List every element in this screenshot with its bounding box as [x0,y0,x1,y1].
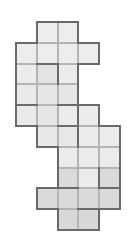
piece-border [77,63,79,86]
grid-cell [58,84,79,105]
piece-border [119,187,121,210]
grid-cell [78,188,99,209]
piece-border [36,125,38,148]
piece-border [36,21,38,44]
grid-cell [58,147,79,168]
polyomino-puzzle-board [0,0,130,252]
piece-border [15,125,38,127]
piece-border [98,187,121,189]
grid-cell [78,105,99,126]
grid-cell [58,126,79,147]
piece-border [77,208,100,210]
grid-cell [99,188,120,209]
grid-cell [37,105,58,126]
grid-cell [37,126,58,147]
piece-border [98,125,121,127]
grid-cell [78,168,99,189]
piece-border [57,187,80,189]
piece-border [77,21,79,44]
piece-border [57,21,80,23]
piece-border [36,187,38,210]
piece-border [57,208,59,231]
piece-border [15,104,38,106]
grid-cell [37,64,58,85]
grid-cell [16,43,37,64]
piece-border [36,208,59,210]
grid-cell [78,126,99,147]
piece-border [57,63,59,86]
piece-border [15,42,38,44]
grid-cell [37,22,58,43]
grid-cell [37,188,58,209]
piece-border [77,63,100,65]
grid-cell [78,209,99,230]
piece-border [77,104,79,127]
grid-cell [99,126,120,147]
grid-cell [58,22,79,43]
grid-cell [78,147,99,168]
piece-border [119,167,121,190]
grid-cell [16,84,37,105]
piece-border [57,125,80,127]
piece-border [57,229,80,231]
grid-cell [99,168,120,189]
piece-border [77,125,79,148]
piece-border [77,104,100,106]
grid-cell [58,168,79,189]
piece-border [119,146,121,169]
piece-border [57,104,80,106]
grid-cell [37,84,58,105]
piece-border [36,146,59,148]
piece-border [98,208,121,210]
piece-border [77,83,79,106]
grid-cell [58,64,79,85]
grid-cell [16,64,37,85]
piece-border [77,42,100,44]
piece-border [57,146,59,169]
piece-border [15,63,17,86]
piece-border [36,21,59,23]
piece-border [15,104,17,127]
grid-cell [99,147,120,168]
piece-border [98,167,100,190]
piece-border [98,208,100,231]
piece-border [15,42,17,65]
grid-cell [58,105,79,126]
piece-border [36,187,59,189]
piece-border [15,83,17,106]
piece-border [119,125,121,148]
grid-cell [16,105,37,126]
grid-cell [78,43,99,64]
piece-border [77,229,100,231]
grid-cell [58,43,79,64]
piece-border [36,63,59,65]
grid-cell [58,188,79,209]
piece-border [57,167,59,190]
grid-cell [37,43,58,64]
grid-cell [58,209,79,230]
piece-border [98,42,100,65]
piece-border [98,104,100,127]
